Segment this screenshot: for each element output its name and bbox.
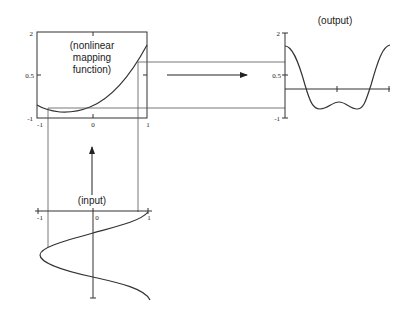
- input-plot: (input) -1 0 1: [35, 195, 152, 300]
- input-curve: [40, 212, 150, 300]
- output-plot: (output) 2 0.5 -1: [272, 15, 390, 123]
- output-ytick-mid: 0.5: [272, 72, 281, 80]
- input-xtick-mid: 0: [95, 214, 99, 222]
- input-label: (input): [78, 195, 106, 206]
- mapping-ytick-bottom: -1: [27, 115, 33, 123]
- mapping-xtick-left: -1: [37, 121, 43, 129]
- mapping-label-line1: (nonlinear: [70, 40, 115, 51]
- input-xtick-right: 1: [147, 214, 151, 222]
- mapping-xtick-right: 1: [146, 121, 150, 129]
- output-curve: [285, 45, 390, 109]
- input-xtick-left: -1: [37, 214, 43, 222]
- output-ytick-bottom: -1: [274, 115, 280, 123]
- mapping-function-plot: (nonlinear mapping function) 2 0.5 -1 -1…: [25, 30, 150, 129]
- diagram-canvas: (nonlinear mapping function) 2 0.5 -1 -1…: [0, 0, 407, 328]
- mapping-label-line3: function): [73, 64, 111, 75]
- output-ytick-top: 2: [277, 30, 281, 38]
- output-label: (output): [318, 15, 352, 26]
- mapping-ytick-mid: 0.5: [25, 72, 34, 80]
- mapping-xtick-mid: 0: [91, 121, 95, 129]
- mapping-label-line2: mapping: [73, 52, 111, 63]
- mapping-ytick-top: 2: [30, 30, 34, 38]
- projection-guides: [48, 62, 285, 247]
